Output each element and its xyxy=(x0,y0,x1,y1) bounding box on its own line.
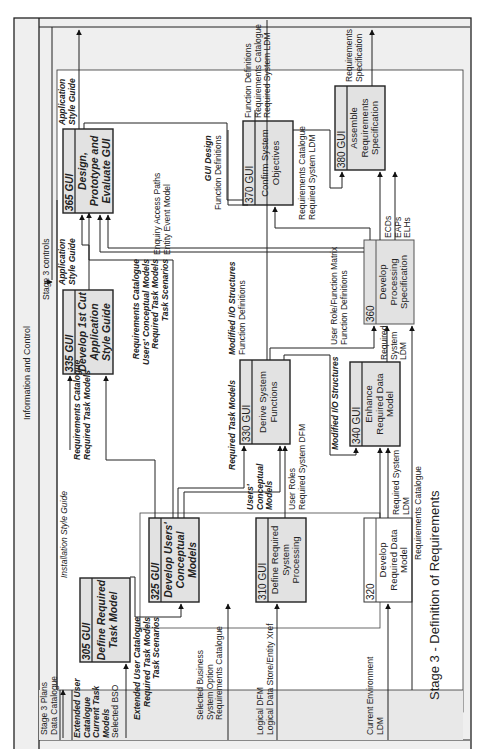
in-365-label: Enquiry Access PathsEntity Event Model xyxy=(153,173,172,255)
process-340-name: EnhanceRequired DataModel xyxy=(364,362,396,446)
in-310-label: Logical DFMLogical Data Store/Entity Xre… xyxy=(256,623,275,735)
info-control-label: Information and Control xyxy=(22,326,32,420)
out-370-label: Function DefinitionsRequirements Catalog… xyxy=(244,24,273,118)
gui-design-label: GUI DesignFunction Definitions xyxy=(204,135,223,210)
in-340-label: Required SystemLDM xyxy=(392,450,411,515)
in-330-roles-label: User RolesRequired System DFM xyxy=(288,424,307,510)
process-320-name: DevelopRequired DataModel xyxy=(378,518,410,602)
process-360-name: DevelopProcessingSpecification xyxy=(378,240,410,324)
out-380-label: RequirementsSpecification xyxy=(345,29,364,82)
process-370-id: 370 GUI xyxy=(244,166,255,203)
ssadm-stage3-diagram: Information and Control Stage 3 controls… xyxy=(0,0,486,749)
out-305-label: Extended User CatalogueRequired Task Mod… xyxy=(133,617,162,720)
process-365-id: 365 GUI xyxy=(64,174,75,211)
in-360-matrix-label: User Role/Function MatrixFunction Defini… xyxy=(330,247,349,345)
bso-label: Selected BusinessSystem OptionRequiremen… xyxy=(196,626,225,720)
out-330-label: Modified I/O StructuresFunction Definiti… xyxy=(228,261,247,355)
process-325-name: Develop Users'ConceptualModels xyxy=(163,518,198,602)
process-310-name: Define RequiredSystemProcessing xyxy=(270,518,302,602)
process-320-id: 320 xyxy=(365,583,376,600)
process-380-name: AssembleRequirementsSpecification xyxy=(349,86,381,170)
out-335-label: ApplicationStyle Guide xyxy=(58,238,77,285)
io-340-label: Modified I/O Structures xyxy=(331,356,341,450)
in-335-label: Requirements CatalogueRequired Task Mode… xyxy=(73,360,92,460)
in-360-ldm-label: RequiredSystemLDM xyxy=(380,326,409,361)
process-365-name: Design,Prototype andEvaluate GUI xyxy=(77,129,112,213)
process-340-id: 340 GUI xyxy=(351,407,362,444)
in-330-ucm-label: Users'ConceptualModels xyxy=(246,464,275,510)
process-325-id: 325 GUI xyxy=(150,563,161,600)
stage-controls-label: Stage 3 controls xyxy=(42,239,52,300)
process-380-id: 380 GUI xyxy=(336,131,347,168)
process-310-id: 310 GUI xyxy=(257,563,268,600)
process-360-id: 360 xyxy=(365,305,376,322)
in-370-label: Requirements CatalogueRequired System LD… xyxy=(298,126,317,220)
in-330-rtm-label: Required Task Models xyxy=(228,380,238,470)
process-330-name: Derive SystemFunctions xyxy=(258,360,279,444)
process-330-id: 330 GUI xyxy=(241,405,252,442)
process-370-name: Confirm SystemObjectives xyxy=(260,121,281,205)
process-305-name: Define RequiredTask Model xyxy=(96,578,120,662)
installation-style-guide-label: Installation Style Guide xyxy=(60,491,70,578)
stage-plans-label: Stage 3 PlansData Catalogue xyxy=(40,676,59,735)
out-360-label: ECDsEAPsELHs xyxy=(384,216,413,238)
out-325-label: Requirements CatalogueUsers' Conceptual … xyxy=(132,259,170,365)
in-320-label: Current EnvironmentLDM xyxy=(366,657,385,735)
process-305-id: 305 GUI xyxy=(81,623,92,660)
out-365-label: ApplicationStyle Guide xyxy=(58,78,77,125)
diagram-title: Stage 3 - Definition of Requirements xyxy=(428,490,443,700)
in-305-label: Extended User Catalogue Current Task Mod… xyxy=(73,678,121,738)
req-cat-bottom-label: Requirements Catalogue xyxy=(414,466,424,560)
